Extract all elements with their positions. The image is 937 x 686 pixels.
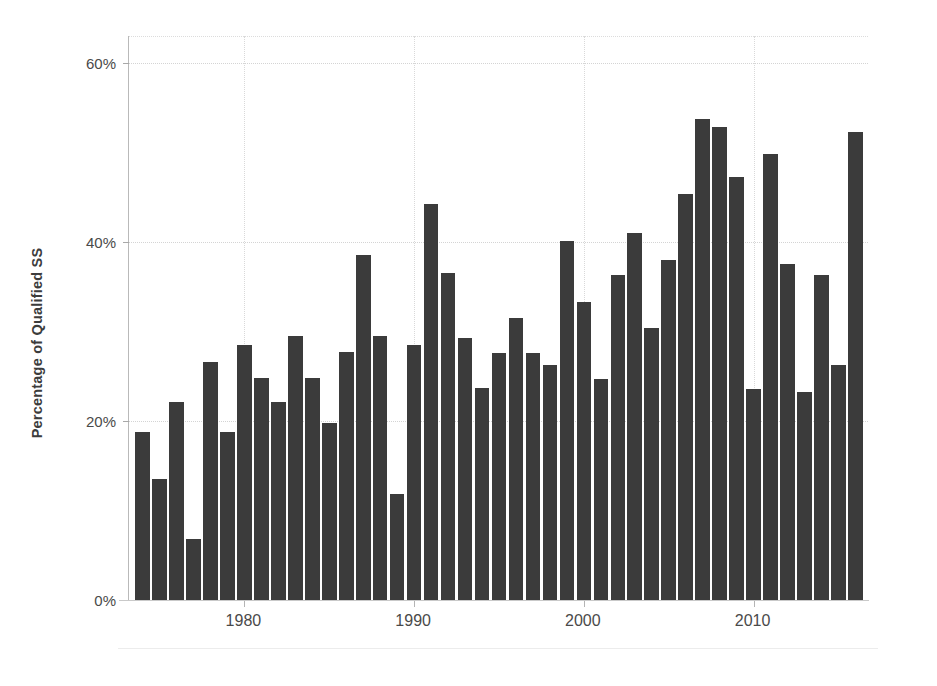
bar	[322, 423, 337, 600]
bar	[152, 479, 167, 600]
x-tick-label: 2000	[565, 612, 601, 630]
bar	[526, 353, 541, 600]
bar	[373, 336, 388, 600]
bar	[848, 132, 863, 600]
x-tick-label: 2010	[735, 612, 771, 630]
x-tick-label: 1980	[226, 612, 262, 630]
bars-layer	[129, 36, 868, 600]
bar	[627, 233, 642, 600]
bar	[543, 365, 558, 600]
bar	[407, 345, 422, 600]
x-tick-mark	[244, 600, 245, 607]
x-tick-mark	[414, 600, 415, 607]
bar	[458, 338, 473, 600]
bar	[135, 432, 150, 600]
x-tick-label: 1990	[395, 612, 431, 630]
bar	[746, 389, 761, 600]
x-axis-baseline	[119, 600, 869, 601]
x-tick-mark	[584, 600, 585, 607]
bar	[644, 328, 659, 600]
x-tick-mark	[754, 600, 755, 607]
bar	[254, 378, 269, 600]
bar	[712, 127, 727, 600]
bar	[678, 194, 693, 600]
y-tick-label: 60%	[86, 54, 116, 71]
bar	[797, 392, 812, 600]
bar	[390, 494, 405, 600]
bar	[594, 379, 609, 600]
bar	[661, 260, 676, 600]
bar	[356, 255, 371, 600]
bar	[611, 275, 626, 600]
bar	[831, 365, 846, 600]
bar-chart: Percentage of Qualified SS 0%20%40%60%19…	[0, 0, 937, 686]
bar	[695, 119, 710, 600]
figure-bottom-rule	[118, 648, 878, 649]
bar	[305, 378, 320, 600]
y-tick-label: 0%	[94, 592, 116, 609]
bar	[780, 264, 795, 600]
bar	[339, 352, 354, 600]
bar	[441, 273, 456, 600]
bar	[237, 345, 252, 600]
bar	[186, 539, 201, 600]
plot-area	[128, 36, 868, 600]
bar	[271, 402, 286, 600]
y-axis-title: Percentage of Qualified SS	[22, 0, 52, 686]
bar	[288, 336, 303, 600]
bar	[169, 402, 184, 600]
bar	[492, 353, 507, 600]
bar	[203, 362, 218, 600]
y-tick-label: 40%	[86, 233, 116, 250]
bar	[424, 204, 439, 600]
bar	[577, 302, 592, 600]
bar	[729, 177, 744, 600]
bar	[814, 275, 829, 600]
bar	[560, 241, 575, 600]
bar	[220, 432, 235, 600]
bar	[763, 154, 778, 600]
bar	[509, 318, 524, 600]
y-tick-label: 20%	[86, 412, 116, 429]
bar	[475, 388, 490, 600]
